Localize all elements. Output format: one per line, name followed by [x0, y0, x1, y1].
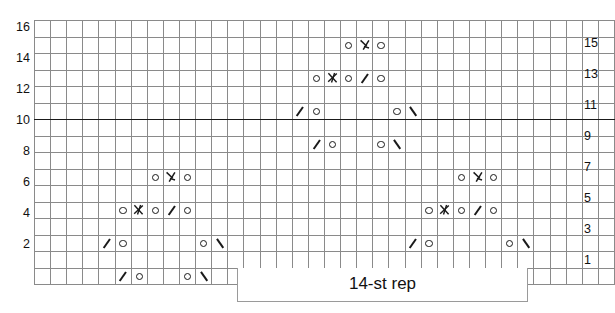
chart-cell[interactable] — [260, 186, 276, 203]
chart-cell[interactable] — [83, 136, 99, 153]
chart-cell[interactable] — [373, 103, 389, 120]
chart-cell[interactable] — [324, 169, 340, 186]
chart-cell[interactable] — [405, 21, 421, 38]
chart-cell[interactable] — [276, 54, 292, 71]
chart-cell[interactable] — [308, 21, 324, 38]
chart-cell[interactable] — [276, 120, 292, 137]
chart-cell[interactable] — [244, 120, 260, 137]
chart-cell[interactable] — [324, 21, 340, 38]
chart-cell[interactable] — [518, 21, 534, 38]
chart-cell[interactable] — [67, 235, 83, 252]
chart-cell[interactable] — [550, 268, 566, 285]
chart-cell[interactable] — [502, 169, 518, 186]
chart-cell[interactable] — [373, 21, 389, 38]
chart-cell[interactable] — [260, 219, 276, 236]
chart-cell[interactable] — [341, 169, 357, 186]
chart-cell[interactable] — [131, 169, 147, 186]
chart-cell[interactable] — [131, 87, 147, 104]
chart-cell[interactable] — [357, 169, 373, 186]
chart-cell[interactable] — [518, 87, 534, 104]
chart-cell[interactable] — [131, 120, 147, 137]
chart-cell[interactable] — [324, 252, 340, 269]
chart-cell[interactable] — [469, 87, 485, 104]
chart-cell[interactable] — [196, 37, 212, 54]
chart-cell[interactable] — [437, 219, 453, 236]
chart-cell[interactable] — [518, 186, 534, 203]
chart-cell[interactable] — [373, 235, 389, 252]
chart-cell[interactable] — [486, 103, 502, 120]
chart-cell[interactable] — [244, 136, 260, 153]
chart-cell[interactable] — [502, 120, 518, 137]
chart-cell[interactable] — [486, 21, 502, 38]
chart-cell[interactable] — [196, 202, 212, 219]
chart-cell[interactable] — [437, 153, 453, 170]
chart-cell[interactable] — [469, 169, 485, 186]
chart-cell[interactable] — [99, 219, 115, 236]
chart-cell[interactable] — [534, 219, 550, 236]
chart-cell[interactable] — [502, 219, 518, 236]
chart-cell[interactable] — [421, 136, 437, 153]
chart-cell[interactable] — [534, 252, 550, 269]
chart-cell[interactable] — [67, 136, 83, 153]
chart-cell[interactable] — [534, 153, 550, 170]
chart-cell[interactable] — [260, 153, 276, 170]
chart-cell[interactable] — [534, 21, 550, 38]
chart-cell[interactable] — [260, 136, 276, 153]
chart-cell[interactable] — [260, 87, 276, 104]
chart-cell[interactable] — [582, 268, 598, 285]
chart-cell[interactable] — [115, 136, 131, 153]
chart-cell[interactable] — [437, 21, 453, 38]
chart-cell[interactable] — [115, 70, 131, 87]
chart-cell[interactable] — [405, 136, 421, 153]
chart-cell[interactable] — [212, 54, 228, 71]
chart-cell[interactable] — [486, 235, 502, 252]
chart-cell[interactable] — [534, 235, 550, 252]
chart-cell[interactable] — [453, 252, 469, 269]
chart-cell[interactable] — [51, 252, 67, 269]
chart-cell[interactable] — [566, 120, 582, 137]
chart-cell[interactable] — [421, 120, 437, 137]
chart-cell[interactable] — [228, 252, 244, 269]
chart-cell[interactable] — [163, 54, 179, 71]
chart-cell[interactable] — [276, 169, 292, 186]
chart-cell[interactable] — [518, 153, 534, 170]
chart-cell[interactable] — [357, 235, 373, 252]
chart-cell[interactable] — [115, 252, 131, 269]
chart-cell[interactable] — [502, 21, 518, 38]
chart-cell[interactable] — [196, 268, 212, 285]
chart-cell[interactable] — [244, 186, 260, 203]
chart-cell[interactable] — [276, 37, 292, 54]
chart-cell[interactable] — [228, 21, 244, 38]
chart-cell[interactable] — [163, 186, 179, 203]
chart-cell[interactable] — [67, 169, 83, 186]
chart-cell[interactable] — [67, 54, 83, 71]
chart-cell[interactable] — [163, 235, 179, 252]
chart-cell[interactable] — [550, 202, 566, 219]
chart-cell[interactable] — [502, 136, 518, 153]
chart-cell[interactable] — [405, 120, 421, 137]
chart-cell[interactable] — [115, 120, 131, 137]
chart-cell[interactable] — [550, 186, 566, 203]
chart-cell[interactable] — [163, 103, 179, 120]
chart-cell[interactable] — [421, 37, 437, 54]
chart-cell[interactable] — [67, 186, 83, 203]
chart-cell[interactable] — [469, 120, 485, 137]
chart-cell[interactable] — [469, 136, 485, 153]
chart-cell[interactable] — [228, 70, 244, 87]
chart-cell[interactable] — [276, 153, 292, 170]
chart-cell[interactable] — [486, 70, 502, 87]
chart-cell[interactable] — [51, 268, 67, 285]
chart-cell[interactable] — [502, 202, 518, 219]
chart-cell[interactable] — [212, 169, 228, 186]
chart-cell[interactable] — [147, 21, 163, 38]
chart-cell[interactable] — [518, 54, 534, 71]
chart-cell[interactable] — [486, 136, 502, 153]
chart-cell[interactable] — [115, 186, 131, 203]
chart-cell[interactable] — [357, 120, 373, 137]
chart-cell[interactable] — [212, 219, 228, 236]
chart-cell[interactable] — [196, 219, 212, 236]
chart-cell[interactable] — [341, 219, 357, 236]
chart-cell[interactable] — [341, 186, 357, 203]
chart-cell[interactable] — [389, 252, 405, 269]
chart-cell[interactable] — [453, 21, 469, 38]
